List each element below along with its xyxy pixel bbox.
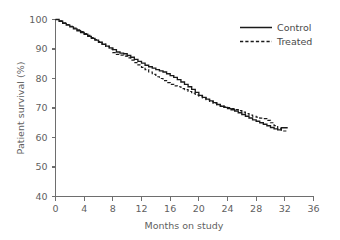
y-tick-label: 100 [29, 14, 47, 25]
legend: Control Treated [240, 22, 312, 47]
y-tick-label: 50 [35, 161, 47, 172]
x-tick-label: 16 [164, 203, 176, 214]
x-tick-label: 28 [250, 203, 262, 214]
y-tick-label: 90 [35, 43, 47, 54]
legend-label-control: Control [277, 22, 311, 33]
y-tick-label: 40 [35, 191, 47, 202]
y-tick-label: 60 [35, 132, 47, 143]
x-tick-label: 0 [52, 203, 58, 214]
x-tick-label: 36 [307, 203, 319, 214]
x-axis-title: Months on study [145, 220, 224, 231]
x-tick-group: 04812162024283236 [52, 197, 319, 214]
survival-chart: 405060708090100 04812162024283236 Months… [0, 0, 340, 240]
y-axis-title: Patient survival (%) [15, 62, 26, 155]
chart-canvas: 405060708090100 04812162024283236 Months… [0, 0, 340, 240]
x-tick-label: 12 [135, 203, 147, 214]
x-tick-label: 24 [221, 203, 233, 214]
x-tick-label: 4 [81, 203, 87, 214]
series-group [56, 20, 288, 132]
legend-label-treated: Treated [276, 36, 312, 47]
series-line-control [56, 20, 288, 130]
x-tick-label: 20 [193, 203, 205, 214]
y-tick-label: 80 [35, 73, 47, 84]
y-tick-label: 70 [35, 102, 47, 113]
x-tick-label: 32 [279, 203, 291, 214]
y-tick-group: 405060708090100 [29, 14, 55, 202]
x-tick-label: 8 [110, 203, 116, 214]
